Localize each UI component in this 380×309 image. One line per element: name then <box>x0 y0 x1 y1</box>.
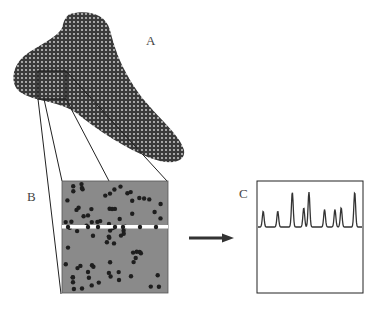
dot <box>71 280 75 284</box>
label-c: C <box>239 186 248 201</box>
dot-on-scan-line <box>113 225 117 229</box>
dot <box>79 182 83 186</box>
dot-on-scan-line <box>96 225 100 229</box>
dot <box>71 184 75 188</box>
dot <box>89 207 93 211</box>
dot <box>75 229 79 233</box>
projection-line <box>38 99 61 294</box>
dot <box>63 220 67 224</box>
dot <box>81 214 85 218</box>
label-a: A <box>146 33 156 48</box>
dot <box>95 220 99 224</box>
dot <box>137 196 141 200</box>
dot <box>118 217 122 221</box>
dot <box>112 241 116 245</box>
dot <box>134 256 138 260</box>
dot-on-scan-line <box>154 225 158 229</box>
dot <box>65 198 69 202</box>
dot <box>131 260 135 264</box>
dot-on-scan-line <box>86 225 90 229</box>
dot <box>130 199 134 203</box>
dot <box>117 278 121 282</box>
dot <box>69 220 73 224</box>
dot <box>107 234 111 238</box>
dot <box>129 274 133 278</box>
dot <box>157 285 161 289</box>
dot <box>158 216 162 220</box>
panel-b-box <box>62 181 168 293</box>
dot <box>80 186 84 190</box>
label-b: B <box>27 189 36 204</box>
dot <box>76 206 80 210</box>
dot <box>108 191 112 195</box>
dot <box>80 286 84 290</box>
dot <box>117 270 121 274</box>
dot <box>64 262 68 266</box>
dot-on-scan-line <box>121 225 125 229</box>
dot <box>152 210 156 214</box>
diagram: A B C <box>0 0 380 309</box>
dot <box>108 274 112 278</box>
arrow-icon <box>189 234 234 243</box>
dot-on-scan-line <box>138 225 142 229</box>
dot <box>71 275 75 279</box>
dot <box>149 284 153 288</box>
dot <box>103 193 107 197</box>
dot <box>90 220 94 224</box>
dot <box>158 202 162 206</box>
dot <box>66 245 70 249</box>
dot <box>71 189 75 193</box>
dot <box>156 273 160 277</box>
dot <box>112 187 116 191</box>
dot <box>135 250 139 254</box>
dot <box>86 213 90 217</box>
dot <box>87 276 91 280</box>
dot <box>110 207 114 211</box>
dot <box>86 270 90 274</box>
dot <box>122 232 126 236</box>
dot <box>130 212 134 216</box>
dot <box>90 263 94 267</box>
tissue-shape <box>13 12 184 162</box>
dot <box>72 287 76 291</box>
dot <box>75 266 79 270</box>
dot <box>90 283 94 287</box>
dot <box>97 280 101 284</box>
dot <box>108 260 112 264</box>
dot <box>125 191 129 195</box>
dot-on-scan-line <box>66 225 70 229</box>
dot <box>142 196 146 200</box>
dot <box>91 234 95 238</box>
panel-b-magnified-region <box>62 181 168 293</box>
dot <box>118 184 122 188</box>
dot <box>105 240 109 244</box>
dot <box>147 197 151 201</box>
